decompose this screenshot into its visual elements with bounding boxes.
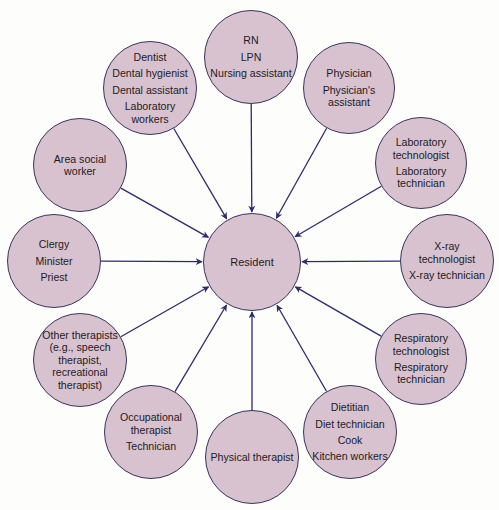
resident-label: Resident: [226, 256, 277, 268]
physician-label: Physician: [322, 67, 375, 79]
arrow-occupational-to-resident: [175, 305, 227, 392]
arrow-other-to-resident: [121, 287, 209, 337]
cook-label: Cook: [334, 434, 367, 446]
kitchen-workers-label: Kitchen workers: [308, 450, 391, 462]
dietitian-label: Dietitian: [327, 401, 373, 413]
dentist-label: Dentist: [130, 51, 171, 63]
clergy-node: Clergy Minister Priest: [7, 214, 101, 308]
laboratory-node: Laboratory technologist Laboratory techn…: [375, 117, 467, 209]
arrow-dietary-to-resident: [277, 305, 327, 391]
other-therapists-node: Other therapists (e.g., speech therapist…: [33, 313, 127, 407]
dietary-node: Dietitian Diet technician Cook Kitchen w…: [303, 385, 397, 479]
dental-assistant-label: Dental assistant: [108, 84, 191, 96]
laboratory-technologist-label: Laboratory technologist: [376, 136, 466, 161]
arrow-xray-to-resident: [302, 261, 400, 262]
nursing-assistant-label: Nursing assistant: [206, 67, 295, 79]
dental-hygienist-label: Dental hygienist: [108, 67, 191, 79]
physician-node: Physician Physician's assistant: [303, 42, 395, 134]
physical-therapist-node: Physical therapist: [205, 410, 299, 504]
resident-node: Resident: [203, 213, 301, 311]
physical-therapist-label: Physical therapist: [206, 451, 297, 463]
rn-label: RN: [239, 34, 262, 46]
lpn-label: LPN: [237, 51, 266, 63]
dental-node: Dentist Dental hygienist Dental assistan…: [103, 41, 197, 135]
xray-technologist-label: X-ray technologist: [401, 240, 493, 265]
arrow-clergy-to-resident: [101, 261, 202, 262]
area-social-worker-label: Area social worker: [34, 153, 126, 178]
respiratory-technician-label: Respiratory technician: [376, 361, 466, 386]
arrow-laboratory-to-resident: [295, 186, 381, 236]
arrow-respiratory-to-resident: [295, 287, 381, 336]
priest-label: Priest: [36, 271, 71, 283]
clergy-label: Clergy: [35, 238, 74, 250]
respiratory-technologist-label: Respiratory technologist: [376, 332, 466, 357]
care-team-diagram: Resident RN LPN Nursing assistant Physic…: [0, 0, 499, 510]
nursing-node: RN LPN Nursing assistant: [204, 10, 298, 104]
xray-technician-label: X-ray technician: [405, 269, 489, 281]
occupational-node: Occupational therapist Technician: [104, 385, 198, 479]
other-therapists-label: Other therapists (e.g., speech therapist…: [34, 329, 126, 391]
xray-node: X-ray technologist X-ray technician: [400, 214, 494, 308]
arrow-dental-to-resident: [174, 129, 227, 219]
technician-label: Technician: [122, 440, 180, 452]
social-worker-node: Area social worker: [33, 118, 127, 212]
minister-label: Minister: [31, 255, 76, 267]
diet-technician-label: Diet technician: [311, 418, 389, 430]
arrow-nursing-to-resident: [251, 104, 252, 212]
laboratory-technician-label: Laboratory technician: [376, 165, 466, 190]
respiratory-node: Respiratory technologist Respiratory tec…: [375, 313, 467, 405]
arrow-social-to-resident: [121, 188, 208, 237]
physicians-assistant-label: Physician's assistant: [304, 84, 394, 109]
occupational-therapist-label: Occupational therapist: [105, 411, 197, 436]
arrow-physician-to-resident: [276, 128, 326, 218]
laboratory-workers-label: Laboratory workers: [104, 100, 196, 125]
